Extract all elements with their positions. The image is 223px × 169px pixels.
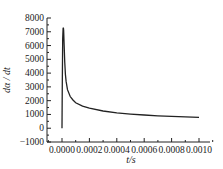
y-tick-label: 6000 (25, 41, 44, 51)
y-tick-label: 8000 (25, 13, 44, 23)
y-tick-label: 0 (39, 123, 44, 133)
x-tick-label: 0.0010 (186, 145, 212, 155)
x-axis-label: t/s (126, 154, 136, 165)
y-tick-label: −1000 (20, 137, 45, 147)
y-tick-label: 3000 (25, 82, 44, 92)
line-chart: −10000100020003000400050006000700080000.… (0, 0, 223, 169)
x-tick-label: 0.0000 (49, 145, 75, 155)
y-axis-label: dα / dt (1, 67, 12, 93)
data-line (62, 28, 199, 129)
x-tick-label: 0.0008 (159, 145, 185, 155)
y-tick-label: 4000 (25, 68, 44, 78)
y-tick-label: 1000 (25, 109, 44, 119)
x-tick-label: 0.0002 (76, 145, 102, 155)
y-tick-label: 2000 (25, 96, 44, 106)
y-tick-label: 7000 (25, 27, 44, 37)
axes: −10000100020003000400050006000700080000.… (20, 13, 213, 155)
y-tick-label: 5000 (25, 54, 44, 64)
